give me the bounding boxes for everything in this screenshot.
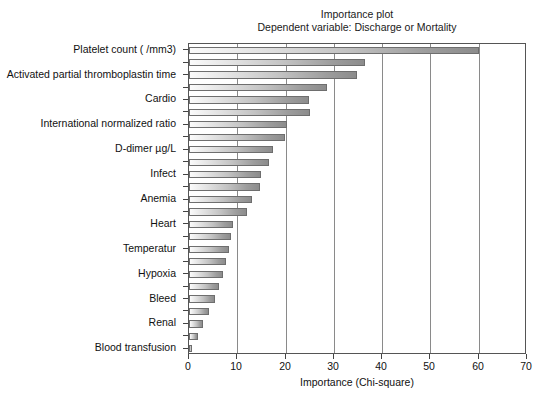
chart-title: Importance plot [188,8,526,21]
bar[interactable] [189,333,198,340]
bar[interactable] [189,134,285,141]
y-axis-label: Infect [150,168,176,179]
bar[interactable] [189,233,231,240]
y-axis-label: Platelet count ( /mm3) [73,44,176,55]
y-axis-labels: Platelet count ( /mm3)Activated partial … [0,43,184,354]
y-axis-label: Hypoxia [138,268,176,279]
x-tick-label: 60 [458,360,498,372]
bar[interactable] [189,171,261,178]
y-axis-label: Anemia [140,193,176,204]
bar[interactable] [189,271,223,278]
bar[interactable] [189,59,365,66]
y-axis-label: Bleed [149,293,176,304]
y-axis-label: Activated partial thromboplastin time [7,69,176,80]
x-tick-30 [333,354,334,359]
x-tick-label: 50 [409,360,449,372]
bar[interactable] [189,320,203,327]
x-tick-label: 40 [361,360,401,372]
y-axis-label: D-dimer µg/L [115,143,176,154]
plot-area [188,43,526,354]
bar[interactable] [189,295,215,302]
bar[interactable] [189,159,269,166]
bar[interactable] [189,47,479,54]
bar[interactable] [189,109,310,116]
chart-subtitle: Dependent variable: Discharge or Mortali… [188,21,526,34]
bars-layer [189,44,525,353]
y-axis-label: Heart [150,218,176,229]
bar[interactable] [189,258,226,265]
bar[interactable] [189,183,260,190]
bar[interactable] [189,221,233,228]
bar[interactable] [189,146,273,153]
y-axis-label: International normalized ratio [41,118,176,129]
y-axis-label: Temperatur [123,243,176,254]
x-tick-label: 30 [313,360,353,372]
bar[interactable] [189,121,287,128]
x-tick-label: 20 [265,360,305,372]
bar[interactable] [189,246,229,253]
x-axis-title: Importance (Chi-square) [188,376,526,388]
bar[interactable] [189,96,309,103]
bar[interactable] [189,345,192,352]
x-tick-label: 0 [168,360,208,372]
chart-title-block: Importance plot Dependent variable: Disc… [188,8,526,34]
x-tick-20 [285,354,286,359]
y-axis-label: Renal [149,317,176,328]
bar[interactable] [189,196,252,203]
bar[interactable] [189,283,219,290]
y-axis-label: Cardio [145,93,176,104]
x-tick-40 [381,354,382,359]
bar[interactable] [189,208,247,215]
x-tick-50 [429,354,430,359]
bar[interactable] [189,71,357,78]
x-tick-10 [236,354,237,359]
x-tick-0 [188,354,189,359]
x-tick-label: 70 [506,360,546,372]
bar[interactable] [189,84,327,91]
importance-bar-chart: Importance plot Dependent variable: Disc… [0,0,548,396]
x-tick-70 [526,354,527,359]
y-axis-label: Blood transfusion [95,342,176,353]
x-tick-60 [478,354,479,359]
x-tick-label: 10 [216,360,256,372]
bar[interactable] [189,308,209,315]
